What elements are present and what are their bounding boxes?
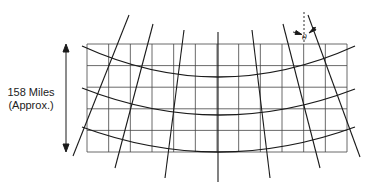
meridian-line — [165, 30, 184, 178]
dimension-label: 158 Miles (Approx.) — [0, 86, 62, 112]
dimension-label-note: (Approx.) — [0, 99, 62, 112]
theta-symbol: θ — [302, 33, 307, 42]
meridian-lines — [73, 15, 360, 182]
dimension-label-value: 158 Miles — [0, 86, 62, 99]
meridian-line — [252, 30, 270, 178]
meridian-line — [283, 24, 320, 168]
meridian-line — [308, 15, 360, 157]
meridian-line — [73, 15, 129, 156]
meridian-line — [115, 24, 153, 168]
rectangular-grid — [87, 44, 347, 152]
dimension-arrow — [63, 44, 69, 152]
